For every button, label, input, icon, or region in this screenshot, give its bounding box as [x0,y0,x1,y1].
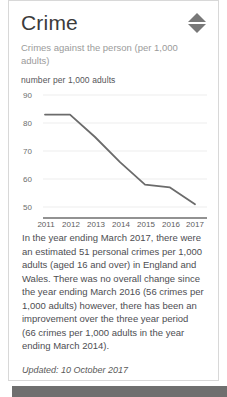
crime-line-chart: number per 1,000 adults 90 80 70 60 50 [9,67,218,227]
y-tick-label: 90 [23,91,32,100]
x-tick-label: 2013 [87,220,105,227]
crime-statistics-card: Crime Crimes against the person (per 1,0… [8,0,219,381]
y-tick-label: 60 [23,175,32,184]
x-tick-label: 2016 [162,220,180,227]
chart-y-axis-label: number per 1,000 adults [21,75,208,85]
chart-series-line [45,115,195,205]
x-tick-label: 2011 [37,220,55,227]
card-header: Crime Crimes against the person (per 1,0… [9,1,218,67]
y-tick-label: 80 [23,119,32,128]
chart-x-tick-labels: 2011 2012 2013 2014 2015 2016 2017 [37,220,204,227]
x-tick-label: 2014 [112,220,130,227]
card-body: In the year ending March 2017, there wer… [9,227,218,377]
chart-svg: 90 80 70 60 50 2011 2012 2013 2014 2015 … [21,87,209,227]
summary-paragraph: In the year ending March 2017, there wer… [22,231,204,353]
sort-diamond-icon[interactable] [186,11,208,35]
chart-plot-area: 90 80 70 60 50 2011 2012 2013 2014 2015 … [21,87,209,227]
chart-y-tick-labels: 90 80 70 60 50 [23,91,32,212]
chart-gridlines [43,95,207,207]
y-tick-label: 50 [23,203,32,212]
x-tick-label: 2015 [137,220,155,227]
x-tick-label: 2012 [62,220,80,227]
page-title: Crime [21,11,206,35]
y-tick-label: 70 [23,147,32,156]
bottom-bar [12,386,227,397]
x-tick-label: 2017 [186,220,204,227]
card-subtitle: Crimes against the person (per 1,000 adu… [21,41,191,67]
updated-timestamp: Updated: 10 October 2017 [22,364,204,377]
